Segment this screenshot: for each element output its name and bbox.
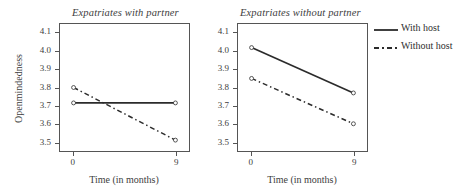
- y-tick-mark: [233, 32, 237, 33]
- y-tick-mark: [233, 124, 237, 125]
- plot-area-right: [237, 23, 368, 152]
- x-tick-mark: [251, 152, 252, 156]
- y-tick-label: 3.9: [207, 63, 229, 73]
- y-tick-label: 3.8: [29, 82, 51, 92]
- legend-line-dashdot-icon: [374, 47, 398, 49]
- series-line-with-host: [252, 48, 354, 93]
- y-tick-mark: [233, 88, 237, 89]
- plot-area-left: [59, 23, 190, 152]
- y-tick-label: 3.6: [29, 118, 51, 128]
- y-tick-mark: [55, 88, 59, 89]
- y-tick-mark: [233, 143, 237, 144]
- legend: With host Without host: [374, 22, 446, 58]
- data-point: [173, 101, 177, 105]
- x-tick-label: 0: [66, 157, 80, 167]
- y-tick-label: 3.5: [207, 137, 229, 147]
- y-tick-mark: [55, 69, 59, 70]
- y-tick-label: 4.1: [207, 26, 229, 36]
- y-tick-label: 4.1: [29, 26, 51, 36]
- y-tick-label: 3.8: [207, 82, 229, 92]
- y-tick-mark: [233, 51, 237, 52]
- y-tick-mark: [55, 32, 59, 33]
- x-axis-title-right: Time (in months): [232, 174, 372, 185]
- legend-label-without-host: Without host: [401, 40, 453, 51]
- y-tick-mark: [55, 124, 59, 125]
- y-tick-mark: [55, 51, 59, 52]
- x-axis-title-left: Time (in months): [54, 174, 194, 185]
- panel-title-right: Expatriates without partner: [240, 7, 361, 18]
- y-tick-label: 4.0: [207, 45, 229, 55]
- y-tick-label: 3.9: [29, 63, 51, 73]
- data-point: [351, 122, 355, 126]
- x-tick-mark: [354, 152, 355, 156]
- y-tick-label: 3.6: [207, 118, 229, 128]
- y-tick-label: 3.7: [207, 100, 229, 110]
- y-tick-mark: [233, 106, 237, 107]
- data-point: [173, 138, 177, 142]
- y-tick-label: 3.7: [29, 100, 51, 110]
- legend-item-without-host: Without host: [374, 40, 446, 58]
- panel-title-left: Expatriates with partner: [72, 7, 179, 18]
- y-tick-label: 3.5: [29, 137, 51, 147]
- y-tick-mark: [233, 69, 237, 70]
- x-tick-label: 9: [347, 157, 361, 167]
- data-point: [250, 46, 254, 50]
- data-point: [72, 86, 76, 90]
- y-axis-title: Openmindedness: [13, 24, 24, 154]
- y-tick-label: 4.0: [29, 45, 51, 55]
- data-point: [351, 91, 355, 95]
- legend-line-solid-icon: [374, 29, 398, 31]
- data-point: [250, 76, 254, 80]
- legend-label-with-host: With host: [401, 22, 440, 33]
- x-tick-mark: [176, 152, 177, 156]
- x-tick-label: 9: [169, 157, 183, 167]
- plot-lines-left: [60, 24, 189, 151]
- plot-lines-right: [238, 24, 367, 151]
- y-tick-mark: [55, 143, 59, 144]
- x-tick-mark: [73, 152, 74, 156]
- series-line-without-host: [74, 88, 176, 141]
- data-point: [72, 101, 76, 105]
- x-tick-label: 0: [244, 157, 258, 167]
- legend-item-with-host: With host: [374, 22, 446, 40]
- y-tick-mark: [55, 106, 59, 107]
